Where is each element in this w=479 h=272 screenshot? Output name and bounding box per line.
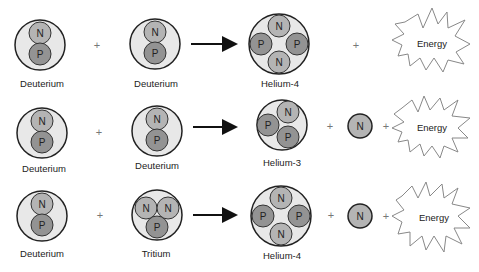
svg-text:N: N — [356, 211, 363, 222]
svg-text:N: N — [275, 21, 282, 32]
helium3-nucleus: N P P — [257, 100, 307, 150]
svg-text:P: P — [294, 39, 301, 50]
energy-burst-icon: Energy — [392, 96, 470, 158]
product-label: Helium-4 — [261, 78, 299, 89]
proton-label: P — [37, 49, 44, 60]
svg-text:N: N — [277, 193, 284, 204]
svg-text:P: P — [265, 120, 272, 131]
svg-text:N: N — [356, 121, 363, 132]
free-neutron: N — [348, 204, 372, 228]
product-label: Helium-4 — [263, 250, 301, 261]
svg-text:N: N — [275, 57, 282, 68]
svg-text:P: P — [285, 132, 292, 143]
svg-text:P: P — [39, 220, 46, 231]
helium4-nucleus: N N P P — [249, 14, 309, 74]
svg-text:N: N — [284, 107, 291, 118]
svg-text:+: + — [383, 120, 389, 132]
svg-text:P: P — [152, 48, 159, 59]
fusion-diagram: N P Deuterium + N P Deuterium N N P P He… — [0, 0, 479, 272]
svg-text:P: P — [260, 211, 267, 222]
svg-text:+: + — [327, 120, 333, 132]
deuterium-nucleus: N P — [130, 19, 180, 69]
reaction-row-2: N P Deuterium + N P Deuterium N P P Heli… — [17, 96, 470, 174]
svg-text:+: + — [97, 209, 103, 221]
svg-text:+: + — [328, 209, 334, 221]
energy-label: Energy — [417, 38, 447, 49]
energy-label: Energy — [417, 122, 447, 133]
reactant2-label: Deuterium — [135, 160, 179, 171]
reactant1-label: Deuterium — [22, 163, 66, 174]
helium4-nucleus: N N P P — [251, 186, 311, 246]
plus-sign: + — [94, 39, 100, 51]
deuterium-nucleus: N P — [17, 191, 67, 241]
reactant2-label: Deuterium — [134, 78, 178, 89]
svg-text:P: P — [296, 211, 303, 222]
product-label: Helium-3 — [263, 157, 301, 168]
reactant2-label: Tritium — [142, 248, 171, 259]
svg-text:N: N — [164, 203, 171, 214]
svg-text:+: + — [383, 210, 389, 222]
deuterium-nucleus: N P — [15, 20, 65, 70]
svg-text:P: P — [154, 135, 161, 146]
free-neutron: N — [348, 114, 372, 138]
tritium-nucleus: N N P — [132, 190, 182, 240]
svg-text:N: N — [153, 114, 160, 125]
deuterium-nucleus: N P — [132, 106, 182, 156]
svg-text:N: N — [38, 116, 45, 127]
svg-text:N: N — [151, 27, 158, 38]
svg-text:N: N — [142, 203, 149, 214]
svg-text:P: P — [154, 222, 161, 233]
svg-text:P: P — [258, 39, 265, 50]
deuterium-nucleus: N P — [17, 108, 67, 158]
svg-text:N: N — [38, 199, 45, 210]
reactant1-label: Deuterium — [20, 78, 64, 89]
svg-text:+: + — [96, 126, 102, 138]
energy-burst-icon: Energy — [392, 182, 470, 252]
svg-text:N: N — [277, 229, 284, 240]
svg-text:P: P — [39, 137, 46, 148]
neutron-label: N — [36, 28, 43, 39]
reaction-row-3: N P Deuterium + N N P Tritium N N P P H — [17, 182, 470, 261]
energy-burst-icon: Energy — [392, 8, 470, 72]
reaction-row-1: N P Deuterium + N P Deuterium N N P P He… — [15, 8, 470, 89]
svg-text:+: + — [353, 39, 359, 51]
reactant1-label: Deuterium — [20, 248, 64, 259]
energy-label: Energy — [419, 212, 449, 223]
